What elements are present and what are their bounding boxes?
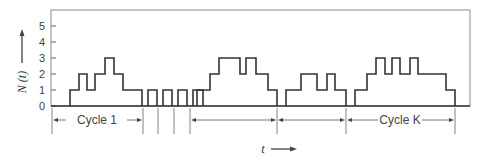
right-arrow-icon [340, 118, 345, 122]
right-arrow-icon [449, 118, 454, 122]
cycle-k-label: Cycle K [379, 113, 420, 127]
y-tick-3: 3 [39, 52, 45, 64]
x-axis-label: t [261, 142, 265, 156]
step-segment [197, 58, 277, 106]
step-segment [70, 58, 142, 106]
step-segment [178, 90, 187, 106]
step-function [51, 58, 470, 106]
right-arrow-icon [271, 118, 276, 122]
y-axis-label-group: N (t) [15, 29, 29, 94]
y-axis: 0 1 2 3 4 5 [39, 20, 56, 112]
cycle-1-label: Cycle 1 [77, 113, 117, 127]
left-arrow-icon [278, 118, 283, 122]
y-tick-2: 2 [39, 68, 45, 80]
up-arrow-icon [20, 29, 25, 36]
left-arrow-icon [191, 118, 196, 122]
right-arrow-icon [137, 118, 142, 122]
cycle-dimensions: Cycle 1 Cycle K [53, 113, 454, 127]
y-tick-4: 4 [39, 36, 45, 48]
step-segment [148, 90, 157, 106]
y-axis-label: N (t) [15, 71, 29, 94]
step-segment [193, 90, 203, 106]
left-arrow-icon [53, 118, 58, 122]
y-tick-5: 5 [39, 20, 45, 32]
step-segment [286, 74, 346, 106]
y-tick-0: 0 [39, 100, 45, 112]
x-axis-label-group: t [261, 142, 297, 156]
step-segment [355, 58, 455, 106]
step-segment [163, 90, 172, 106]
renewal-process-diagram: 0 1 2 3 4 5 N (t) Cycle 1 Cycle K [0, 0, 486, 161]
right-arrow-icon [290, 147, 297, 152]
left-arrow-icon [347, 118, 352, 122]
y-tick-1: 1 [39, 84, 45, 96]
